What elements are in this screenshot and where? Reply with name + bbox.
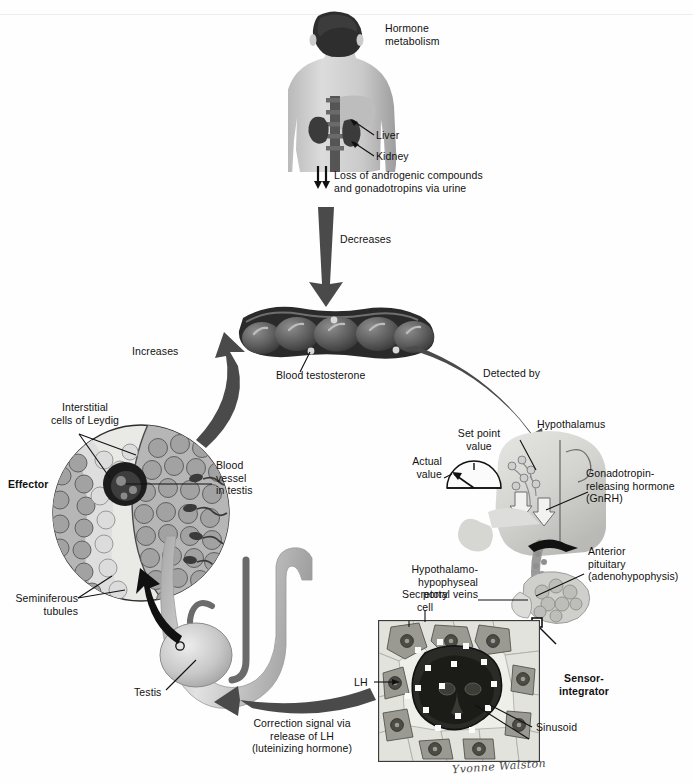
set-point-value-label: Set point value	[448, 427, 510, 452]
kidney-label: Kidney	[376, 150, 409, 163]
effector-label: Effector	[8, 478, 48, 491]
anterior-pituitary-label: Anterior pituitary (adenohypophysis)	[588, 545, 678, 583]
testis-label: Testis	[134, 686, 161, 699]
detected-by-label: Detected by	[483, 367, 540, 380]
secretory-cell-label: Secretory cell	[382, 588, 468, 613]
sinusoid-label: Sinusoid	[536, 721, 577, 734]
correction-signal-label: Correction signal via release of LH (lut…	[222, 717, 382, 755]
actual-value-label: Actual value	[392, 455, 442, 480]
seminiferous-tubules-label: Seminiferous tubules	[0, 592, 78, 617]
panel-leaders	[0, 0, 693, 784]
figure-canvas: Hormone metabolism Liver Kidney Loss of …	[0, 0, 693, 784]
loss-of-androgens-label: Loss of androgenic compounds and gonadot…	[334, 169, 483, 194]
liver-label: Liver	[376, 129, 399, 142]
hypothalamus-label: Hypothalamus	[537, 418, 605, 431]
sensor-integrator-label: Sensor- integrator	[544, 672, 624, 697]
decreases-label: Decreases	[340, 233, 391, 246]
interstitial-cells-label: Interstitial cells of Leydig	[30, 401, 140, 426]
increases-label: Increases	[132, 345, 178, 358]
blood-vessel-in-testis-label: Blood vessel in testis	[216, 459, 253, 497]
lh-label: LH	[354, 676, 368, 689]
hormone-metabolism-label: Hormone metabolism	[385, 22, 440, 47]
gnrh-label: Gonadotropin- releasing hormone (GnRH)	[586, 467, 675, 505]
blood-testosterone-label: Blood testosterone	[276, 369, 365, 382]
